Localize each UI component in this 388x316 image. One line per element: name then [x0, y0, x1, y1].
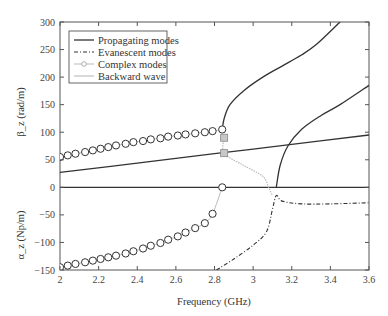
complex-mode-marker [130, 248, 137, 255]
complex-mode-marker [209, 128, 216, 135]
y-tick-label: 300 [40, 17, 55, 28]
complex-mode-marker [82, 259, 89, 266]
complex-mode-marker [201, 220, 208, 227]
complex-mode-marker [130, 139, 137, 146]
complex-mode-marker [147, 242, 154, 249]
y-tick-label: 150 [40, 99, 55, 110]
y-tick-label: 200 [40, 72, 55, 83]
propagating-curve [222, 22, 340, 129]
complex-mode-marker [97, 145, 104, 152]
complex-mode-marker [192, 225, 199, 232]
backward-wave-marker [221, 134, 228, 141]
complex-mode-marker [219, 126, 226, 133]
complex-mode-marker [139, 137, 146, 144]
complex-mode-marker [209, 210, 216, 217]
x-tick-label: 2.6 [170, 274, 183, 285]
complex-mode-marker [165, 133, 172, 140]
complex-mode-marker [64, 262, 71, 269]
complex-mode-marker [147, 136, 154, 143]
complex-mode-marker [122, 250, 129, 257]
complex-mode-marker [72, 150, 79, 157]
complex-mode-marker [89, 147, 96, 154]
complex-mode-marker [219, 184, 226, 191]
backward-wave-marker [221, 150, 228, 157]
y-tick-label: 50 [45, 154, 55, 165]
complex-mode-marker [122, 140, 129, 147]
complex-mode-marker [157, 135, 164, 142]
legend-label: Complex modes [98, 59, 167, 70]
legend-label: Backward wave [98, 71, 166, 82]
legend-label: Propagating modes [98, 35, 179, 46]
complex-mode-marker [174, 233, 181, 240]
x-tick-label: 3.4 [324, 274, 337, 285]
y-tick-label: 250 [40, 44, 55, 55]
x-tick-label: 2.4 [131, 274, 144, 285]
complex-mode-marker [174, 132, 181, 139]
legend-label: Evanescent modes [98, 47, 176, 58]
x-tick-label: 2.8 [208, 274, 221, 285]
complex-mode-marker [105, 254, 112, 261]
complex-mode-marker [89, 257, 96, 264]
y-tick-label: −50 [39, 209, 55, 220]
legend-complex-marker [82, 62, 87, 67]
x-tick-label: 2.2 [92, 274, 105, 285]
complex-mode-marker [182, 229, 189, 236]
complex-mode-marker [112, 142, 119, 149]
legend: Propagating modesEvanescent modesComplex… [69, 31, 179, 83]
complex-mode-marker [157, 239, 164, 246]
x-tick-label: 2 [58, 274, 63, 285]
y-tick-label: −100 [34, 237, 55, 248]
y-axis-title-top: β_z (rad/m) [15, 87, 27, 137]
y-tick-label: −150 [34, 265, 55, 276]
x-axis-title: Frequency (GHz) [177, 296, 251, 308]
complex-mode-marker [97, 255, 104, 262]
complex-mode-marker [182, 131, 189, 138]
complex-mode-marker [72, 260, 79, 267]
dispersion-chart: 300250200150100500−50−100−150 22.22.42.6… [0, 0, 388, 316]
complex-mode-marker [192, 130, 199, 137]
y-tick-label: 100 [40, 127, 55, 138]
complex-mode-marker [201, 129, 208, 136]
y-axis-title-bottom: α_z (Np/m) [15, 210, 27, 259]
x-tick-label: 3.6 [363, 274, 376, 285]
complex-mode-marker [165, 236, 172, 243]
x-tick-label: 3.2 [286, 274, 299, 285]
evanescent-curve [216, 195, 369, 270]
complex-mode-marker [112, 252, 119, 259]
y-tick-label: 0 [50, 182, 55, 193]
complex-mode-marker [64, 152, 71, 159]
complex-mode-marker [82, 148, 89, 155]
propagating-curve [60, 135, 369, 172]
x-tick-label: 3 [251, 274, 256, 285]
complex-mode-marker [139, 245, 146, 252]
complex-mode-marker [105, 144, 112, 151]
